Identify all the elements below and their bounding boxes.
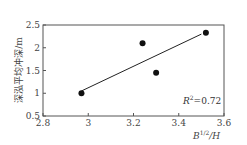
y-axis-label: 深泓平均冲深/m bbox=[13, 37, 24, 103]
chart: 2.833.23.43.60.511.522.5R2=0.72B1/2/H深泓平… bbox=[0, 0, 247, 145]
x-tick-label: 3.6 bbox=[217, 118, 232, 128]
y-tick-label: 1 bbox=[34, 88, 40, 98]
data-point bbox=[203, 30, 209, 36]
y-tick-label: 0.5 bbox=[26, 111, 41, 121]
y-tick-label: 2.5 bbox=[26, 20, 41, 30]
y-tick-label: 2 bbox=[34, 43, 40, 53]
x-tick-label: 3.4 bbox=[172, 118, 187, 128]
y-tick-label: 1.5 bbox=[26, 66, 41, 76]
x-axis-label: B1/2/H bbox=[192, 129, 220, 141]
data-point bbox=[153, 70, 159, 76]
data-point bbox=[140, 40, 146, 46]
x-tick-label: 3 bbox=[85, 118, 91, 128]
x-tick-label: 3.2 bbox=[126, 118, 140, 128]
data-point bbox=[78, 90, 84, 96]
r-squared-annotation: R2=0.72 bbox=[182, 94, 221, 106]
